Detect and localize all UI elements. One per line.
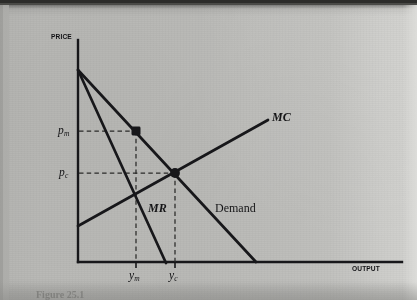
curve-lines bbox=[78, 70, 268, 263]
pc-base: p bbox=[59, 166, 65, 178]
caption-fragment-text: Figure 25.1 bbox=[36, 290, 226, 300]
quantity-tick-label-yc: yc bbox=[169, 270, 177, 282]
ym-subscript: m bbox=[134, 274, 139, 283]
x-axis-label: OUTPUT bbox=[352, 265, 380, 273]
y-axis-label: PRICE bbox=[51, 33, 72, 41]
caption-fragment-clip: Figure 25.1 bbox=[36, 290, 226, 300]
quantity-tick-label-ym: ym bbox=[129, 270, 140, 282]
pm-subscript: m bbox=[64, 129, 69, 138]
figure-screenshot: PRICE OUTPUT MC Demand MR pm pc ym yc Fi… bbox=[0, 0, 417, 300]
price-tick-label-pc: pc bbox=[59, 167, 68, 179]
monopoly-point-marker bbox=[132, 127, 141, 136]
axis-lines bbox=[78, 40, 402, 262]
demand-curve-label: Demand bbox=[215, 202, 256, 214]
demand-curve-line bbox=[78, 70, 256, 262]
mr-curve-label: MR bbox=[148, 202, 167, 214]
mr-curve-line bbox=[78, 70, 166, 263]
competitive-point-marker bbox=[170, 168, 180, 178]
yc-subscript: c bbox=[174, 274, 177, 283]
guide-dashed-lines bbox=[79, 131, 175, 262]
monopoly-diagram-plot bbox=[0, 0, 417, 300]
price-tick-label-pm: pm bbox=[58, 125, 69, 137]
mc-curve-label: MC bbox=[272, 111, 291, 123]
pc-subscript: c bbox=[65, 171, 68, 180]
pm-base: p bbox=[58, 124, 64, 136]
